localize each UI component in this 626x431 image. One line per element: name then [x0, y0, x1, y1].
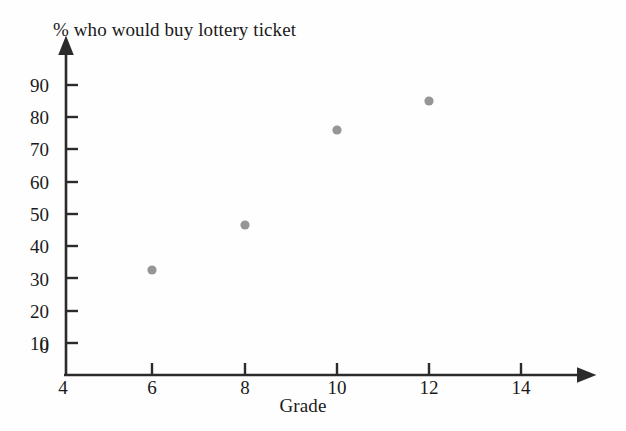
scatter-plot-figure: % who would buy lottery ticket 0 10 20 3… — [0, 0, 626, 431]
x-axis-tick-labels: 4 6 8 10 12 14 — [0, 0, 626, 431]
x-tick-label-12: 12 — [409, 378, 449, 397]
x-tick-label-4: 4 — [43, 378, 83, 397]
x-tick-label-8: 8 — [225, 378, 265, 397]
x-tick-label-14: 14 — [501, 378, 541, 397]
x-axis-label: Grade — [0, 396, 616, 415]
x-tick-label-6: 6 — [132, 378, 172, 397]
